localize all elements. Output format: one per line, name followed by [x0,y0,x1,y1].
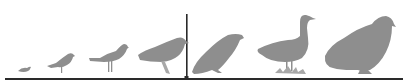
divider-foot [185,76,189,79]
hawk-icon [192,34,244,74]
thrush-icon [89,44,129,72]
goose-icon [258,15,317,74]
baseline [5,78,403,80]
bird-size-diagram [0,0,406,83]
divider-line [186,14,188,78]
crow-icon [138,37,189,74]
small-songbird-icon [47,53,75,73]
tiny-bird-icon [18,67,31,72]
grouse-icon [325,16,396,74]
